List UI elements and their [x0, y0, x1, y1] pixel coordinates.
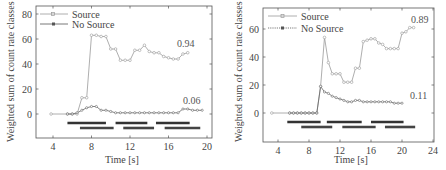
data-series — [271, 26, 415, 114]
x-axis-label: Time [s] — [105, 154, 139, 165]
x-tick-label: 4 — [51, 141, 56, 152]
x-tick-label: 24 — [428, 145, 438, 156]
series-no-source — [290, 86, 402, 113]
y-tick-label: 40 — [22, 59, 32, 70]
y-axis-label: Weighted sum of count rate classes — [5, 1, 16, 142]
legend: Source No Source — [268, 11, 344, 34]
y-tick-label: 40 — [249, 52, 259, 63]
legend-source: Source — [301, 11, 329, 22]
y-tick-label: 0 — [27, 109, 32, 120]
legend-nosource: No Source — [301, 23, 344, 34]
y-tick-label: 60 — [22, 34, 32, 45]
segment-bars — [67, 123, 200, 128]
annotation-source: 0.94 — [177, 38, 195, 49]
axis-ticks: 48121620020406080 — [22, 6, 212, 152]
y-tick-label: 60 — [249, 24, 259, 35]
y-tick-label: 80 — [22, 9, 32, 20]
x-tick-label: 16 — [164, 141, 174, 152]
x-tick-label: 8 — [307, 145, 312, 156]
y-tick-label: 0 — [254, 108, 259, 119]
chart-right: 48121620240204060 Source No Source 0.89 … — [233, 1, 438, 165]
segment-bars — [287, 122, 415, 127]
y-axis-label: Weighted sum of count rate classes — [233, 1, 244, 142]
y-tick-label: 20 — [22, 84, 32, 95]
y-tick-label: 20 — [249, 80, 259, 91]
x-tick-label: 20 — [202, 141, 212, 152]
x-tick-label: 12 — [125, 141, 135, 152]
charts-figure: 48121620020406080 Source No Source 0.94 … — [0, 0, 446, 170]
plot-frame — [36, 6, 212, 138]
annotation-nosource: 0.11 — [410, 90, 427, 101]
annotation-nosource: 0.06 — [183, 95, 201, 106]
legend-nosource: No Source — [72, 19, 115, 30]
x-tick-label: 8 — [89, 141, 94, 152]
x-tick-label: 4 — [276, 145, 281, 156]
series-source — [51, 35, 188, 114]
legend: Source No Source — [40, 9, 115, 30]
chart-left: 48121620020406080 Source No Source 0.94 … — [5, 1, 212, 165]
x-axis-label: Time [s] — [334, 154, 368, 165]
x-tick-label: 20 — [397, 145, 407, 156]
annotation-source: 0.89 — [411, 14, 429, 25]
